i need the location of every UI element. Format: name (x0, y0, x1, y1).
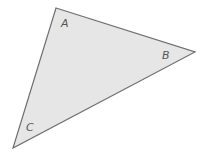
triangle-abc (13, 8, 195, 148)
vertex-label-b: B (162, 49, 170, 62)
vertex-label-a: A (60, 17, 69, 30)
triangle-diagram: A B C (0, 0, 204, 154)
vertex-label-c: C (26, 121, 34, 134)
triangle-svg: A B C (0, 0, 204, 154)
